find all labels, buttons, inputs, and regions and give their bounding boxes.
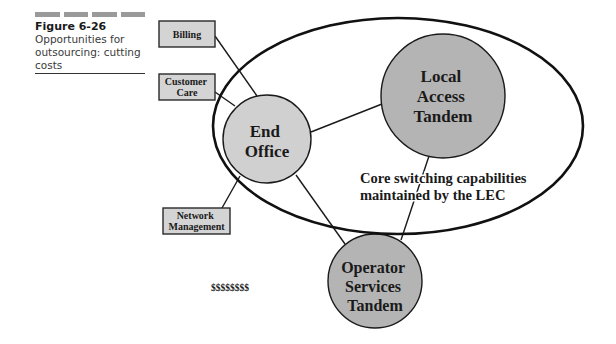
- svg-text:Billing: Billing: [173, 29, 201, 40]
- node-operator-services-tandem-label-line3: Tandem: [347, 297, 403, 314]
- node-local-access-tandem-label-line1: Local: [421, 67, 462, 86]
- box-customer-care-label-line1: Customer: [165, 76, 208, 87]
- svg-text:End Office: End Office: [245, 122, 290, 161]
- box-network-management-label-line1: Network: [177, 210, 215, 221]
- svg-text:Local Access Tandem: Local Access Tandem: [414, 67, 473, 126]
- node-operator-services-tandem-label-line2: Services: [345, 278, 401, 295]
- core-switching-label-line2: maintained by the LEC: [360, 187, 505, 203]
- node-operator-services-tandem-label-line1: Operator: [341, 259, 405, 277]
- cost-label: $$$$$$$$: [211, 283, 249, 293]
- node-local-access-tandem-label-line2: Access: [417, 87, 466, 106]
- svg-text:Operator Services Tand: Operator Services Tandem: [341, 259, 409, 314]
- node-end-office-label-line2: Office: [245, 142, 290, 161]
- outsourcing-diagram: Billing Customer Care Network Management…: [0, 0, 616, 344]
- node-end-office-label-line1: End: [250, 122, 281, 141]
- node-local-access-tandem-label-line3: Tandem: [414, 107, 473, 126]
- connector-end-office-operator-services-tandem: [296, 175, 345, 244]
- connector-end-office-local-access-tandem: [311, 104, 382, 132]
- box-billing-label: Billing: [173, 29, 201, 40]
- box-customer-care-label-line2: Care: [177, 87, 198, 98]
- connector-billing-end-office: [215, 36, 257, 96]
- box-network-management-label-line2: Management: [168, 221, 225, 232]
- svg-text:Core switching capabilities: Core switching capabilities maintained b…: [360, 170, 530, 203]
- core-switching-label-line1: Core switching capabilities: [360, 170, 527, 186]
